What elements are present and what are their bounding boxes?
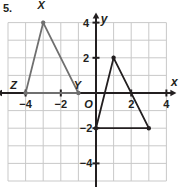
x-axis-tick-label: −2	[55, 98, 68, 110]
y-axis-tick-label: −2	[80, 122, 93, 134]
x-axis-tick-label: 4	[163, 98, 170, 110]
vertex-label: Z	[9, 79, 18, 91]
x-axis-arrow-left	[0, 90, 2, 97]
x-axis-label: x	[170, 75, 179, 89]
x-axis-tick-label: 2	[128, 98, 134, 110]
y-axis-tick-label: 2	[83, 52, 89, 64]
vertex-point	[76, 91, 80, 95]
problem-number: 5.	[3, 2, 12, 14]
vertex-point	[111, 56, 115, 60]
x-axis-tick-label: −4	[19, 98, 32, 110]
y-axis-tick-label: −4	[80, 157, 93, 169]
y-axis-arrow-up	[93, 13, 100, 19]
y-axis-tick-label: 4	[83, 17, 90, 29]
y-axis-label: y	[100, 12, 109, 26]
graph-labels: −4−22442−2−4OxyXYZ	[9, 0, 179, 169]
coordinate-plane: −4−22442−2−4OxyXYZ	[0, 0, 194, 187]
vertex-label: Y	[74, 79, 83, 91]
vertex-point	[147, 126, 151, 130]
vertex-label: X	[37, 0, 46, 11]
x-axis-arrow-right	[170, 90, 176, 97]
origin-label: O	[84, 98, 93, 110]
vertex-point	[23, 91, 27, 95]
vertex-point	[41, 20, 45, 24]
vertex-point	[94, 126, 98, 130]
graph-figure: 5. −4−22442−2−4OxyXYZ	[0, 0, 194, 187]
